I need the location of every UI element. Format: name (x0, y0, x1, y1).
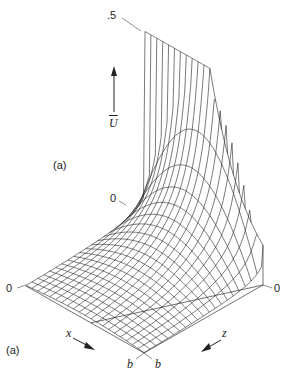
u-axis-label: U (109, 117, 118, 129)
z-zero-tick: 0 (274, 283, 280, 294)
u-axis-arrow-icon (111, 66, 117, 112)
panel-label-top: (a) (53, 160, 66, 171)
x-zero-tick: 0 (6, 283, 12, 294)
x-end-tick: b (127, 358, 133, 370)
z-end-tick: b (155, 358, 161, 370)
wireframe-surface (26, 32, 263, 353)
z-axis-label: z (222, 327, 227, 339)
right-zero-leader (263, 285, 272, 288)
u-zero-leader (119, 201, 126, 205)
u-top-leader (122, 18, 141, 31)
b-right-leader (144, 353, 152, 359)
x-axis-arrow-icon (73, 338, 95, 350)
left-zero-leader (17, 285, 26, 288)
u-top-tick: .5 (107, 10, 116, 21)
panel-label-bottom: (a) (6, 345, 19, 356)
surface-plot (0, 0, 288, 374)
b-left-leader (136, 353, 144, 359)
z-axis-arrow-icon (201, 340, 221, 352)
u-zero-tick: 0 (110, 193, 116, 204)
x-axis-label: x (66, 327, 71, 339)
